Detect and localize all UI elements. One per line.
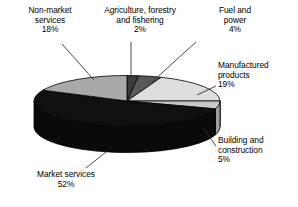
slice-label-fuel-and-power: Fuel and power 4% — [198, 6, 272, 35]
pie-chart-figure: Non-market services 18% Agriculture, for… — [0, 0, 298, 207]
slice-label-market-services: Market services 52% — [14, 170, 118, 189]
slice-label-agriculture: Agriculture, forestry and fishering 2% — [88, 6, 192, 35]
slice-label-building-and-construction: Building and construction 5% — [218, 136, 298, 165]
slice-value: 19% — [218, 80, 298, 90]
leader-line-fuel-and-power — [152, 42, 196, 82]
slice-value: 4% — [198, 25, 272, 35]
slice-label-manufactured-products: Manufactured products 19% — [218, 61, 298, 90]
slice-value: 5% — [218, 155, 298, 165]
slice-value: 18% — [8, 25, 92, 35]
pie-top-faces — [34, 75, 220, 126]
leader-line-market-services — [86, 152, 106, 168]
leader-line-non-market-services — [62, 44, 94, 80]
slice-value: 52% — [14, 180, 118, 190]
slice-label-non-market-services: Non-market services 18% — [8, 6, 92, 35]
slice-value: 2% — [88, 25, 192, 35]
slice-label-line2: construction — [218, 146, 298, 156]
